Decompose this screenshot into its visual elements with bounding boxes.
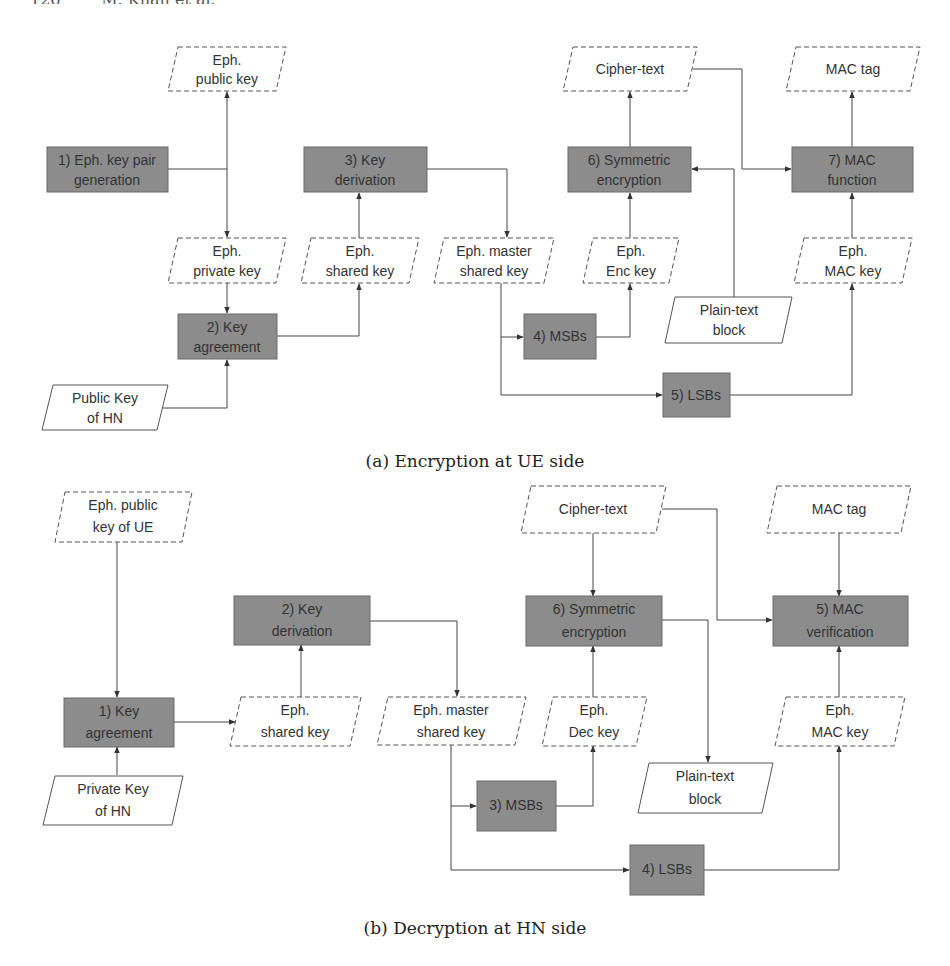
svg-text:2) Key: 2) Key bbox=[207, 319, 247, 335]
svg-text:MAC key: MAC key bbox=[812, 724, 869, 740]
svg-text:1) Key: 1) Key bbox=[99, 703, 139, 719]
svg-text:of HN: of HN bbox=[87, 410, 123, 426]
node-msbs: 4) MSBs bbox=[524, 314, 596, 359]
svg-text:6) Symmetric: 6) Symmetric bbox=[553, 601, 635, 617]
edge-pubhn-to-agreement bbox=[163, 360, 227, 408]
node-plain-text-block: Plain-text block bbox=[638, 763, 773, 813]
svg-text:MAC key: MAC key bbox=[825, 263, 882, 279]
svg-text:Eph.: Eph. bbox=[839, 243, 868, 259]
node-msbs: 3) MSBs bbox=[477, 781, 556, 831]
svg-text:derivation: derivation bbox=[335, 172, 396, 188]
node-public-key-hn: Public Key of HN bbox=[42, 385, 168, 430]
node-eph-public-key-ue: Eph. public key of UE bbox=[55, 492, 192, 542]
edge-plain-to-symenc bbox=[692, 169, 734, 297]
svg-text:Plain-text: Plain-text bbox=[700, 302, 758, 318]
node-eph-master-shared-key: Eph. master shared key bbox=[377, 697, 526, 745]
svg-text:5) MAC: 5) MAC bbox=[816, 601, 863, 617]
svg-text:Cipher-text: Cipher-text bbox=[559, 501, 628, 517]
node-eph-dec-key: Eph. Dec key bbox=[542, 697, 647, 746]
node-mac-tag: MAC tag bbox=[786, 47, 920, 91]
node-eph-mac-key: Eph. MAC key bbox=[794, 238, 912, 283]
node-private-key-hn: Private Key of HN bbox=[43, 776, 183, 825]
svg-text:of HN: of HN bbox=[95, 803, 131, 819]
flow-diagram: Eph. public key 1) Eph. key pair generat… bbox=[0, 0, 950, 966]
svg-text:derivation: derivation bbox=[272, 623, 333, 639]
svg-text:5) LSBs: 5) LSBs bbox=[671, 387, 721, 403]
svg-text:key of UE: key of UE bbox=[93, 519, 154, 535]
svg-text:Eph.: Eph. bbox=[826, 702, 855, 718]
node-mac-verification: 5) MAC verification bbox=[773, 596, 908, 646]
svg-text:1) Eph. key pair: 1) Eph. key pair bbox=[58, 152, 156, 168]
svg-text:agreement: agreement bbox=[194, 339, 261, 355]
svg-text:Eph.: Eph. bbox=[281, 702, 310, 718]
svg-text:Eph. master: Eph. master bbox=[413, 702, 489, 718]
node-eph-enc-key: Eph. Enc key bbox=[583, 238, 679, 283]
svg-text:6) Symmetric: 6) Symmetric bbox=[588, 152, 670, 168]
svg-text:2) Key: 2) Key bbox=[282, 601, 322, 617]
svg-text:shared key: shared key bbox=[326, 263, 394, 279]
edge-agreement-to-shared bbox=[277, 284, 359, 336]
svg-text:3) MSBs: 3) MSBs bbox=[489, 797, 543, 813]
svg-text:encryption: encryption bbox=[597, 172, 662, 188]
svg-text:generation: generation bbox=[74, 172, 140, 188]
svg-text:Eph. master: Eph. master bbox=[456, 243, 532, 259]
svg-text:3) Key: 3) Key bbox=[345, 152, 385, 168]
caption-b: (b) Decryption at HN side bbox=[364, 918, 587, 938]
svg-text:Eph.: Eph. bbox=[213, 52, 242, 68]
node-plain-text-block: Plain-text block bbox=[665, 297, 792, 343]
svg-text:Private Key: Private Key bbox=[77, 781, 149, 797]
node-lsbs: 5) LSBs bbox=[663, 373, 730, 417]
node-eph-shared-key: Eph. shared key bbox=[301, 238, 419, 283]
edge-derivation-to-master bbox=[370, 621, 457, 696]
svg-text:block: block bbox=[713, 322, 747, 338]
node-eph-public-key: Eph. public key bbox=[168, 47, 286, 91]
svg-text:Eph. public: Eph. public bbox=[88, 497, 157, 513]
svg-text:shared key: shared key bbox=[460, 263, 528, 279]
node-eph-shared-key: Eph. shared key bbox=[230, 697, 361, 746]
svg-text:public key: public key bbox=[196, 71, 258, 87]
edge-derivation-to-master bbox=[427, 169, 507, 237]
node-cipher-text: Cipher-text bbox=[563, 47, 697, 91]
edge-msbs-to-enckey bbox=[596, 284, 630, 337]
edge-cipher-to-mac bbox=[693, 69, 791, 169]
svg-text:shared key: shared key bbox=[417, 724, 485, 740]
svg-text:verification: verification bbox=[807, 624, 874, 640]
svg-text:Enc key: Enc key bbox=[606, 263, 656, 279]
svg-text:Cipher-text: Cipher-text bbox=[596, 61, 665, 77]
svg-text:Eph.: Eph. bbox=[346, 243, 375, 259]
svg-text:function: function bbox=[827, 172, 876, 188]
node-mac-function: 7) MAC function bbox=[792, 147, 913, 192]
svg-text:MAC tag: MAC tag bbox=[812, 501, 866, 517]
edge-msbs-to-deckey bbox=[556, 746, 593, 806]
svg-text:agreement: agreement bbox=[86, 725, 153, 741]
edge-cipher-to-macver bbox=[662, 509, 772, 620]
svg-text:Eph.: Eph. bbox=[580, 702, 609, 718]
svg-text:Eph.: Eph. bbox=[213, 243, 242, 259]
node-eph-private-key: Eph. private key bbox=[168, 238, 286, 283]
svg-text:encryption: encryption bbox=[562, 624, 627, 640]
node-mac-tag: MAC tag bbox=[767, 486, 911, 533]
node-key-agreement: 2) Key agreement bbox=[178, 314, 277, 359]
node-key-derivation: 3) Key derivation bbox=[304, 147, 427, 192]
node-symmetric-encryption: 6) Symmetric encryption bbox=[526, 596, 662, 646]
svg-text:4) MSBs: 4) MSBs bbox=[533, 328, 587, 344]
caption-a: (a) Encryption at UE side bbox=[366, 451, 585, 471]
svg-text:Public Key: Public Key bbox=[72, 390, 138, 406]
node-key-agreement: 1) Key agreement bbox=[64, 698, 174, 747]
node-cipher-text: Cipher-text bbox=[521, 486, 666, 533]
node-key-derivation: 2) Key derivation bbox=[234, 596, 370, 645]
node-symmetric-encryption: 6) Symmetric encryption bbox=[568, 147, 691, 192]
edge-symenc-to-plain bbox=[662, 620, 708, 762]
figure-b: Eph. public key of UE 1) Key agreement P… bbox=[43, 486, 911, 938]
svg-text:Plain-text: Plain-text bbox=[676, 768, 734, 784]
svg-text:7) MAC: 7) MAC bbox=[828, 152, 875, 168]
svg-text:MAC tag: MAC tag bbox=[826, 61, 880, 77]
node-lsbs: 4) LSBs bbox=[630, 845, 704, 895]
node-eph-mac-key: Eph. MAC key bbox=[775, 697, 905, 746]
svg-text:Dec key: Dec key bbox=[569, 724, 620, 740]
figure-a: Eph. public key 1) Eph. key pair generat… bbox=[42, 47, 920, 471]
svg-text:private key: private key bbox=[193, 263, 261, 279]
svg-text:block: block bbox=[689, 791, 723, 807]
svg-text:4) LSBs: 4) LSBs bbox=[642, 861, 692, 877]
node-eph-master-shared-key: Eph. master shared key bbox=[434, 238, 554, 283]
